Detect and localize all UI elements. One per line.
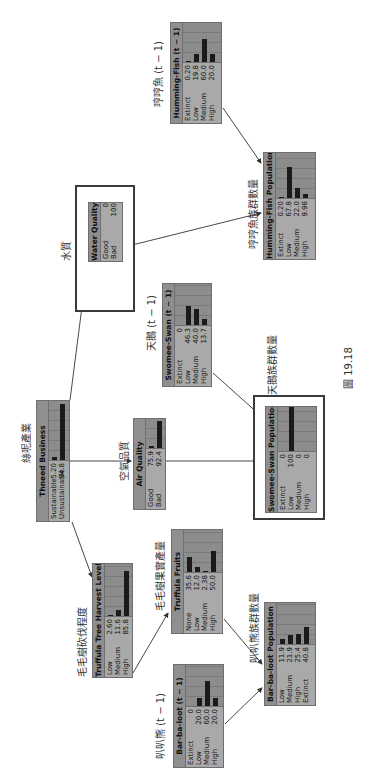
state-row: Low100: [287, 454, 295, 510]
node-title: Humming-Fish (t − 1): [171, 23, 183, 123]
state-row: High50.0: [209, 575, 217, 631]
state-value: 46.3: [184, 328, 192, 346]
node-truffula-fruits[interactable]: Truffula FruitsNone35.6Low12.0Medium2.38…: [171, 529, 223, 634]
probability-bars: [186, 665, 223, 707]
node-title: Swomee-Swan (t − 1): [163, 284, 175, 386]
node-barbaloot-population[interactable]: Bar-ba-loot PopulationLow11.9Medium21.9H…: [264, 602, 316, 706]
state-row: Medium40.0: [192, 328, 200, 384]
state-label: Low: [193, 593, 201, 631]
bayesian-network-diagram: 哼哼魚 (t − 1) Humming-Fish (t − 1)Extinct0…: [0, 0, 372, 781]
state-value: 94.8: [58, 463, 66, 481]
node-title: Bar-ba-loot (t − 1): [174, 665, 186, 767]
state-row: High0: [303, 454, 311, 510]
state-row: None35.6: [185, 575, 193, 631]
node-truffula-harvest-level[interactable]: Truffula Tree Harvest LevelLow2.60Medium…: [92, 563, 133, 678]
state-label: Low: [192, 83, 200, 121]
probability-bar: [186, 306, 191, 325]
label-humming-fish-prev-zh: 哼哼魚 (t − 1): [150, 41, 165, 107]
state-label: High: [211, 727, 219, 765]
state-row: High20.0: [208, 65, 216, 121]
state-label: Medium: [203, 727, 211, 765]
state-value: 20.0: [195, 709, 203, 727]
state-value: 85.8: [122, 619, 130, 637]
state-label: Low: [106, 637, 114, 675]
state-row: Good0: [102, 203, 110, 259]
node-humming-fish-population[interactable]: Humming-Fish PopulationExtinct0.20Low67.…: [263, 152, 316, 260]
probability-bar: [287, 168, 292, 199]
node-title: Swomee-Swan Population: [266, 407, 278, 512]
state-row: Extinct0: [176, 328, 184, 384]
state-label: High: [209, 593, 217, 631]
probability-bar: [187, 557, 192, 572]
state-label: Medium: [200, 83, 208, 121]
probability-bars: [146, 419, 165, 449]
node-water-quality[interactable]: Water QualityGood0Bad100: [88, 202, 123, 262]
state-row: Bad92.4: [155, 451, 163, 507]
state-row: Low2.60: [106, 619, 114, 675]
state-label: Medium: [192, 346, 200, 384]
probability-bar: [194, 309, 199, 325]
state-label: Unsustainable: [58, 481, 66, 519]
label-thneed-business-zh: 絲呢產業: [18, 423, 33, 463]
state-value: 0: [303, 454, 311, 472]
state-value: 0.20: [277, 201, 285, 219]
state-value: 0: [295, 454, 303, 472]
state-row: Medium22.0: [293, 201, 301, 257]
state-row: Low19.8: [192, 65, 200, 121]
node-swomee-swan-prev[interactable]: Swomee-Swan (t − 1)Extinct0Low46.3Medium…: [162, 283, 212, 387]
state-label: Sustainable: [50, 481, 58, 519]
state-row: Low46.3: [184, 328, 192, 384]
state-label: Medium: [293, 219, 301, 257]
state-label: High: [122, 637, 130, 675]
node-thneed-business[interactable]: Thneed BusinessSustainable5.20Unsustaina…: [36, 400, 70, 522]
probability-bar: [296, 634, 301, 644]
probability-bars: [49, 401, 69, 461]
state-value: 9.98: [301, 201, 309, 219]
state-row: Low11.9: [278, 647, 286, 703]
node-barbaloot-prev[interactable]: Bar-ba-loot (t − 1)Extinct0Low20.0Medium…: [173, 664, 224, 768]
probability-bar: [52, 457, 57, 460]
state-label: High: [303, 472, 311, 510]
probability-bar: [211, 551, 216, 572]
node-air-quality[interactable]: Air QualityGood75.9Bad92.4: [133, 418, 166, 510]
state-value: 11.6: [114, 619, 122, 637]
state-value: 0: [176, 328, 184, 346]
state-row: Extinct0: [187, 709, 195, 765]
state-value: 67.8: [285, 201, 293, 219]
state-value: 0: [187, 709, 195, 727]
state-value: 11.9: [278, 647, 286, 665]
probability-bar: [60, 404, 65, 460]
state-value: 22.0: [293, 201, 301, 219]
state-value: 21.9: [286, 647, 294, 665]
state-value: 12.0: [193, 575, 201, 593]
label-barbaloot-prev-zh: 叭叭熊 (t − 1): [152, 693, 167, 759]
state-row: Sustainable5.20: [50, 463, 58, 519]
node-swomee-swan-population[interactable]: Swomee-Swan PopulationExtinct0Low100Medi…: [265, 406, 317, 513]
state-value: 0: [102, 203, 110, 221]
state-row: Good75.9: [147, 451, 155, 507]
probability-bar: [303, 194, 308, 198]
node-title: Air Quality: [134, 419, 146, 509]
probability-bar: [195, 567, 200, 572]
state-label: None: [185, 593, 193, 631]
state-label: Medium: [286, 665, 294, 703]
state-row: Extinct0.20: [277, 201, 285, 257]
probability-bars: [276, 153, 315, 199]
state-row: High13.7: [200, 328, 208, 384]
state-value: 5.20: [50, 463, 58, 481]
edge-water-hummingfish: [124, 213, 261, 247]
state-row: Unsustainable94.8: [58, 463, 66, 519]
probability-bars: [183, 23, 221, 63]
state-label: Medium: [295, 472, 303, 510]
state-label: Extinct: [184, 83, 192, 121]
state-label: High: [208, 83, 216, 121]
state-label: Bad: [155, 469, 163, 507]
node-title: Water Quality: [89, 203, 101, 261]
edge-barbalootprev-pop: [225, 688, 262, 724]
node-humming-fish-prev[interactable]: Humming-Fish (t − 1)Extinct0.20Low19.8Me…: [170, 22, 222, 124]
probability-bar: [202, 39, 207, 62]
probability-bar: [304, 627, 309, 644]
state-label: Low: [287, 472, 295, 510]
state-label: Low: [278, 665, 286, 703]
state-label: High: [200, 346, 208, 384]
